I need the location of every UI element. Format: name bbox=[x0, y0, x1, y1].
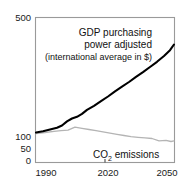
co2-label-main: CO bbox=[93, 149, 108, 160]
x-tick-label-2050: 2050 bbox=[156, 167, 177, 178]
gdp-annotation-line-1: GDP purchasing bbox=[79, 27, 152, 38]
co2-label-tail: emissions bbox=[112, 149, 159, 160]
y-tick-label-50: 50 bbox=[20, 143, 31, 154]
chart-canvas: 500 100 50 0 1990 2020 2050 GDP purchasi… bbox=[0, 0, 189, 193]
y-tick-label-0: 0 bbox=[26, 155, 31, 166]
gdp-annotation-line-2: power adjusted bbox=[84, 39, 152, 50]
gdp-annotation-line-3: (international average in $) bbox=[45, 52, 152, 62]
y-tick-label-100: 100 bbox=[15, 131, 31, 142]
co2-series-label: CO2 emissions bbox=[93, 149, 159, 162]
y-tick-label-500: 500 bbox=[15, 12, 31, 23]
x-tick-label-2020: 2020 bbox=[97, 167, 118, 178]
chart-figure: 500 100 50 0 1990 2020 2050 GDP purchasi… bbox=[0, 0, 189, 193]
x-tick-label-1990: 1990 bbox=[35, 167, 56, 178]
series-line-co2 bbox=[36, 127, 174, 141]
